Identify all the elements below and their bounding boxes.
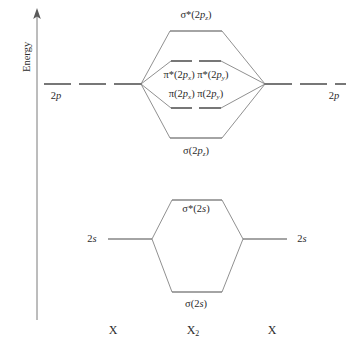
label-species-right-atom: X xyxy=(268,324,277,336)
label-sigma-star-2s: σ*(2s) xyxy=(182,204,209,215)
mo-diagram-canvas: Energy σ*(2pz) π*(2px) π*(2py) π(2px) π(… xyxy=(0,0,348,349)
label-2p-right: 2p xyxy=(329,91,340,102)
label-2s-right: 2s xyxy=(297,234,306,245)
label-species-left-atom: X xyxy=(109,324,118,336)
molecule-subscript: 2 xyxy=(195,329,199,338)
correlation-lines-2p-left xyxy=(141,31,171,138)
label-2p-left: 2p xyxy=(51,91,62,102)
mo-diagram-svg xyxy=(0,0,348,349)
energy-axis-label: Energy xyxy=(22,42,33,72)
label-sigma-2pz: σ(2pz) xyxy=(183,146,209,158)
energy-axis xyxy=(33,8,41,320)
label-2s-left: 2s xyxy=(87,234,96,245)
label-sigma-2s: σ(2s) xyxy=(185,299,207,310)
label-species-molecule: X2 xyxy=(187,324,200,338)
label-sigma-star-2pz: σ*(2pz) xyxy=(180,10,211,22)
label-pi-star: π*(2px) π*(2py) xyxy=(164,70,229,82)
molecule-symbol: X xyxy=(187,323,196,337)
label-pi-bonding: π(2px) π(2py) xyxy=(169,89,223,101)
correlation-lines-2p-right xyxy=(221,31,265,138)
